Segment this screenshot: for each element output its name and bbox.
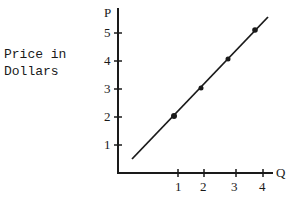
x-axis-label: Q [276, 165, 286, 180]
point-q4-p5 [252, 27, 258, 33]
point-q1-p2 [171, 113, 177, 119]
y-tick-2: 2 [104, 109, 111, 124]
y-axis-label: P [104, 5, 111, 20]
y-tick-1: 1 [104, 137, 111, 152]
x-tick-4: 4 [259, 179, 266, 194]
y-tick-3: 3 [104, 81, 111, 96]
x-tick-1: 1 [175, 179, 182, 194]
x-tick-2: 2 [200, 179, 207, 194]
point-q3-p4 [226, 57, 231, 62]
chart: 5 4 3 2 1 P 1 2 3 4 Q [0, 0, 292, 198]
x-tick-3: 3 [231, 179, 238, 194]
point-q2-p3 [199, 86, 204, 91]
y-tick-5: 5 [104, 25, 111, 40]
y-tick-4: 4 [104, 53, 111, 68]
